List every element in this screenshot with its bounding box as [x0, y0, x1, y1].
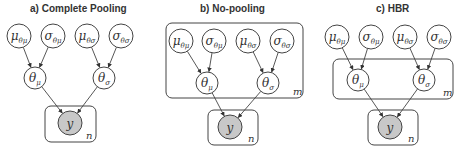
node-mu-theta-mu — [169, 29, 193, 53]
node-mu-theta-sigma — [236, 29, 260, 53]
node-mu-theta-sigma — [393, 25, 417, 49]
node-theta-mu — [24, 67, 46, 89]
plate-label-n: n — [248, 134, 254, 144]
node-theta-sigma — [257, 72, 279, 94]
edge-mu_theta_sigma-to-theta_sigma — [253, 52, 263, 73]
node-sigma-theta-mu — [202, 29, 226, 53]
edge-mu_theta_mu-to-theta_mu — [23, 47, 31, 67]
edge-mu_theta_mu-to-theta_mu — [187, 51, 201, 73]
edge-sigma_theta_sigma-to-theta_sigma — [272, 52, 279, 72]
edge-mu_theta_sigma-to-theta_sigma — [92, 47, 100, 67]
edge-sigma_theta_mu-to-theta_mu — [40, 47, 49, 67]
node-mu-theta-mu — [7, 24, 31, 48]
diagram-canvas — [0, 0, 460, 153]
node-theta-sigma — [93, 67, 115, 89]
plate-label-m: m — [443, 88, 452, 98]
node-sigma-theta-sigma — [109, 24, 133, 48]
node-sigma-theta-sigma — [427, 25, 451, 49]
node-theta-mu — [347, 69, 369, 91]
edge-theta_mu-to-y — [364, 89, 383, 117]
edge-theta_sigma-to-y — [397, 89, 417, 117]
edge-theta_sigma-to-y — [78, 87, 98, 113]
edges-layer — [23, 47, 435, 118]
node-mu-theta-mu — [325, 25, 349, 49]
edge-sigma_theta_sigma-to-theta_sigma — [108, 47, 116, 67]
nodes-layer — [7, 24, 451, 139]
node-sigma-theta-mu — [41, 24, 65, 48]
node-mu-theta-sigma — [75, 24, 99, 48]
panel-title-no-pooling: b) No-pooling — [200, 3, 265, 14]
node-sigma-theta-sigma — [270, 29, 294, 53]
node-y — [378, 115, 402, 139]
node-y — [218, 115, 242, 139]
edge-theta_mu-to-y — [42, 87, 63, 113]
node-theta-sigma — [413, 69, 435, 91]
panel-title-complete-pooling: a) Complete Pooling — [30, 3, 127, 14]
node-sigma-theta-mu — [359, 25, 383, 49]
node-y — [58, 111, 82, 135]
edge-theta_mu-to-y — [212, 93, 224, 116]
plate-label-n: n — [86, 131, 92, 141]
plate-label-m: m — [293, 87, 302, 97]
node-theta-mu — [196, 72, 218, 94]
panel-title-hbr: c) HBR — [376, 3, 409, 14]
edge-sigma_theta_mu-to-theta_mu — [209, 53, 212, 72]
plate-label-n: n — [408, 134, 414, 144]
